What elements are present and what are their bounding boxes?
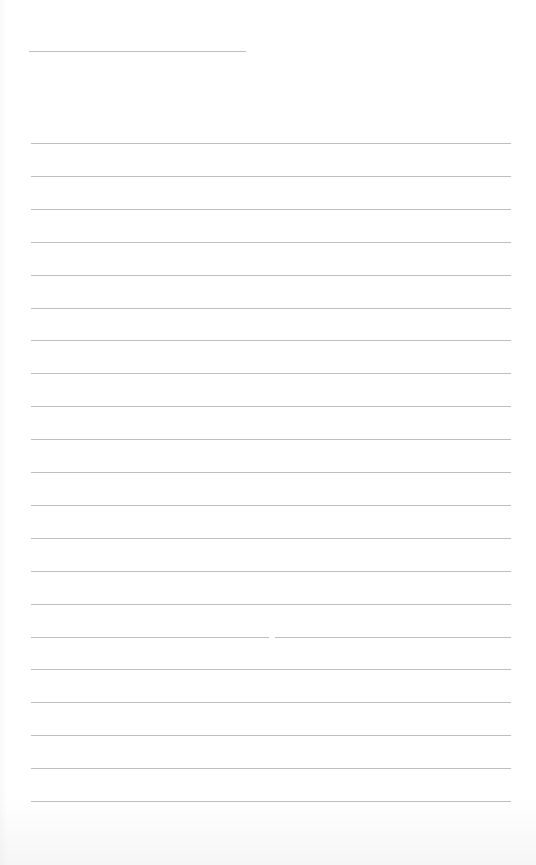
ruled-line xyxy=(31,340,511,341)
header-line xyxy=(29,51,246,52)
ruled-line xyxy=(31,275,511,276)
ruled-line xyxy=(31,406,511,407)
page-edge-shadow xyxy=(0,0,8,865)
ruled-line xyxy=(31,604,511,605)
ruled-line xyxy=(31,373,511,374)
ruled-line xyxy=(31,176,511,177)
ruled-line xyxy=(31,637,511,638)
ruled-line xyxy=(31,571,511,572)
ruled-line xyxy=(31,768,511,769)
ruled-line xyxy=(31,538,511,539)
ruled-line xyxy=(31,801,511,802)
ruled-line xyxy=(31,505,511,506)
ruled-line xyxy=(31,209,511,210)
ruled-line xyxy=(31,472,511,473)
ruled-line xyxy=(31,735,511,736)
ruled-line xyxy=(31,669,511,670)
ruled-line xyxy=(31,308,511,309)
ruled-line xyxy=(31,439,511,440)
ruled-line xyxy=(31,143,511,144)
ruled-line xyxy=(31,242,511,243)
ruled-line xyxy=(31,702,511,703)
line-break-artifact xyxy=(269,637,275,638)
lined-paper-page xyxy=(0,0,536,865)
